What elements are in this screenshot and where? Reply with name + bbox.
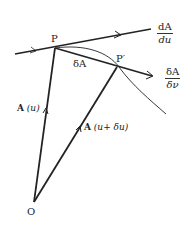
vector-a-u <box>34 48 55 202</box>
tangent-derivative-label: dA du <box>157 22 173 45</box>
chord-delta-a <box>55 48 152 76</box>
point-p-prime-label: P′ <box>116 54 125 64</box>
a-u-du-symbol: A <box>84 122 91 132</box>
a-u-symbol: A <box>17 103 24 113</box>
vector-a-u-du <box>34 67 117 202</box>
a-u-label: A (u) <box>17 104 40 113</box>
chord-denominator: δν <box>165 79 180 90</box>
point-p-label: P <box>51 34 58 44</box>
chord-numerator: δA <box>165 67 180 79</box>
chord-ratio-label: δA δν <box>165 67 180 90</box>
curve-path <box>55 47 166 114</box>
a-u-du-label: A (u+ δu) <box>84 123 128 132</box>
a-u-du-argument: (u+ δu) <box>94 122 128 132</box>
a-u-argument: (u) <box>27 103 40 113</box>
point-o-label: O <box>27 207 35 217</box>
tangent-denominator: du <box>157 34 173 45</box>
tangent-numerator: dA <box>157 22 173 34</box>
delta-a-label: δA <box>73 59 86 69</box>
